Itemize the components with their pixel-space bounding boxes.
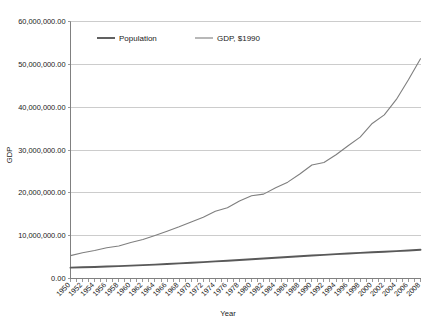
y-tick-labels-group: 0.0010,000,000.0020,000,000.0030,000,000… <box>18 17 65 283</box>
chart-container: 0.0010,000,000.0020,000,000.0030,000,000… <box>0 0 440 325</box>
y-tick-label: 30,000,000.00 <box>18 146 65 155</box>
line-chart: 0.0010,000,000.0020,000,000.0030,000,000… <box>0 0 440 325</box>
x-tick-label: 2008 <box>404 281 422 299</box>
y-tick-label: 60,000,000.00 <box>18 17 65 26</box>
y-axis-title: GDP <box>5 147 14 163</box>
x-tick-labels-group: 1950195219541956195819601962196419661968… <box>54 281 422 299</box>
legend-label-2: GDP, $1990 <box>217 34 261 43</box>
series-line-1 <box>71 250 421 268</box>
chart-legend: PopulationGDP, $1990 <box>97 34 261 43</box>
series-group <box>71 59 421 268</box>
y-tick-label: 50,000,000.00 <box>18 60 65 69</box>
legend-label-1: Population <box>119 34 157 43</box>
series-line-2 <box>71 59 421 256</box>
x-axis-title: Year <box>220 309 236 318</box>
y-tick-label: 40,000,000.00 <box>18 103 65 112</box>
y-tick-label: 20,000,000.00 <box>18 188 65 197</box>
y-tick-label: 10,000,000.00 <box>18 231 65 240</box>
